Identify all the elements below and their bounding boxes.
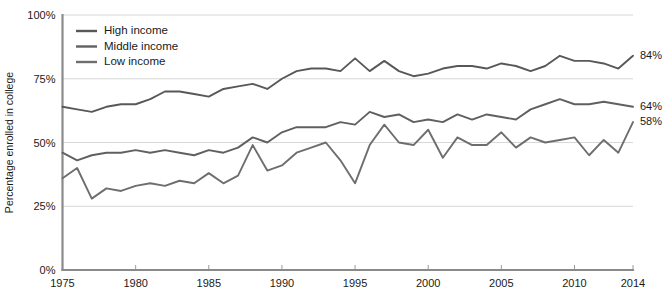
line-chart: 0%25%50%75%100%1975198019851990199520002… <box>0 0 667 298</box>
series-line-low-income <box>63 122 634 199</box>
series-end-label-middle-income: 64% <box>640 100 662 112</box>
x-axis-tick-label: 2010 <box>562 277 586 289</box>
x-axis-tick-label: 2005 <box>489 277 513 289</box>
x-axis-tick-label: 1980 <box>123 277 147 289</box>
x-axis-tick-label: 2000 <box>416 277 440 289</box>
x-axis-tick-label: 1985 <box>197 277 221 289</box>
x-axis-tick-label: 1995 <box>343 277 367 289</box>
legend-label-high-income: High income <box>104 24 168 36</box>
y-axis-title: Percentage enrolled in college <box>3 72 15 213</box>
x-axis-tick-label: 1975 <box>50 277 74 289</box>
y-axis-tick-label: 75% <box>33 73 55 85</box>
legend-label-middle-income: Middle income <box>104 40 178 52</box>
series-end-label-high-income: 84% <box>640 49 662 61</box>
legend-label-low-income: Low income <box>104 55 165 67</box>
y-axis-tick-label: 0% <box>40 264 56 276</box>
y-axis-tick-label: 100% <box>27 9 55 21</box>
series-end-label-low-income: 58% <box>640 115 662 127</box>
y-axis-tick-label: 25% <box>33 200 55 212</box>
series-line-middle-income <box>63 99 634 160</box>
y-axis-tick-label: 50% <box>33 137 55 149</box>
chart-container: 0%25%50%75%100%1975198019851990199520002… <box>0 0 667 298</box>
x-axis-tick-label: 1990 <box>270 277 294 289</box>
x-axis-tick-label: 2014 <box>621 277 645 289</box>
